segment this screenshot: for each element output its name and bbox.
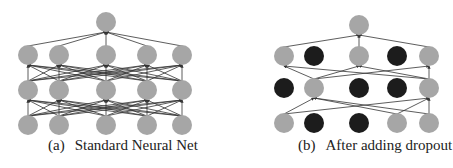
active-neuron — [49, 80, 69, 100]
dropped-neuron — [304, 113, 324, 133]
active-neuron — [274, 46, 294, 66]
panel-title-b: After adding dropout — [326, 137, 453, 153]
active-neuron — [137, 115, 157, 135]
dropped-neuron — [349, 113, 369, 133]
active-neuron — [304, 78, 324, 98]
connection-edge — [106, 32, 182, 46]
connection-edge — [284, 35, 359, 47]
dropped-neuron — [387, 78, 407, 98]
connection-edge — [359, 35, 429, 47]
connection-edge — [284, 66, 429, 79]
active-neuron — [137, 45, 157, 65]
dropped-neuron — [304, 46, 324, 66]
active-neuron — [172, 80, 192, 100]
active-neuron — [419, 78, 439, 98]
connection-edge — [284, 98, 314, 114]
active-neuron — [172, 115, 192, 135]
connection-edge — [314, 98, 397, 114]
active-neuron — [274, 113, 294, 133]
connection-edge — [106, 32, 147, 46]
caption-dropout-net: (b)After adding dropout — [298, 137, 452, 154]
active-neuron — [96, 45, 116, 65]
active-neuron — [49, 45, 69, 65]
active-neuron — [49, 115, 69, 135]
active-neuron — [18, 45, 38, 65]
active-neuron — [18, 80, 38, 100]
active-neuron — [419, 46, 439, 66]
connections — [28, 32, 429, 116]
connection-edge — [314, 98, 429, 114]
active-neuron — [349, 46, 369, 66]
active-neuron — [172, 45, 192, 65]
active-neuron — [419, 113, 439, 133]
dropped-neuron — [349, 78, 369, 98]
active-neuron — [96, 12, 116, 32]
active-neuron — [387, 113, 407, 133]
dropped-neuron — [274, 78, 294, 98]
caption-standard-net: (a)Standard Neural Net — [48, 137, 198, 154]
active-neuron — [96, 115, 116, 135]
panel-label-b: (b) — [298, 137, 316, 153]
active-neuron — [18, 115, 38, 135]
active-neuron — [96, 80, 116, 100]
active-neuron — [137, 80, 157, 100]
active-neuron — [349, 15, 369, 35]
panel-label-a: (a) — [48, 137, 65, 153]
dropped-neuron — [387, 46, 407, 66]
panel-title-a: Standard Neural Net — [75, 137, 198, 153]
